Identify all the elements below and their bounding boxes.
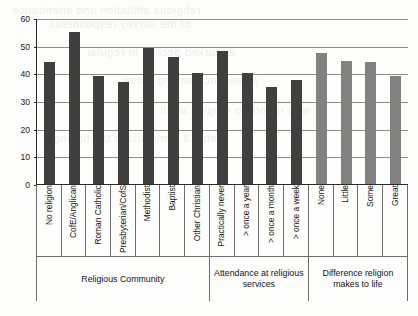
y-axis-tick-label: 30 [6, 98, 30, 107]
y-axis-tick-label: 50 [6, 43, 30, 52]
bar-slot [383, 19, 408, 184]
bar [266, 87, 277, 184]
category-cell: Other Christian [184, 185, 209, 256]
category-label: Roman Catholic [94, 185, 102, 247]
bar [341, 61, 352, 184]
category-cell: > once a week [283, 185, 308, 256]
bar-slot [185, 19, 210, 184]
category-cells: No religionCofE/AnglicanRoman CatholicPr… [37, 185, 209, 256]
category-label: CofE/Anglican [69, 185, 77, 240]
category-cell: Presbyterian/CofS [110, 185, 135, 256]
bar [69, 32, 80, 184]
category-label-table: No religionCofE/AnglicanRoman CatholicPr… [36, 185, 408, 301]
category-label: > once a year [242, 185, 250, 238]
category-label: > once a week [292, 185, 300, 241]
bar-slot [309, 19, 334, 184]
bar-slot [62, 19, 87, 184]
y-axis-tick-label: 0 [6, 181, 30, 190]
y-axis-tick-label: 10 [6, 153, 30, 162]
bar-slot [161, 19, 186, 184]
category-cell: No religion [37, 185, 61, 256]
category-cell: None [309, 185, 333, 256]
group-title: Attendance at religious services [210, 256, 308, 301]
category-label: Some [366, 185, 374, 209]
category-group: NoneLittleSomeGreatDifference religion m… [308, 185, 407, 301]
category-label: None [317, 185, 325, 207]
bar [44, 62, 55, 184]
bar-slot [359, 19, 384, 184]
category-label: No religion [45, 185, 53, 227]
bar-slot [210, 19, 235, 184]
category-label: Other Christian [193, 185, 201, 243]
bar-chart-figure: 0102030405060 No religionCofE/AnglicanRo… [0, 0, 418, 316]
bar [390, 76, 401, 184]
bar-slot [260, 19, 285, 184]
category-label: Little [341, 185, 349, 205]
plot-area: 0102030405060 [36, 19, 408, 185]
bar [316, 53, 327, 184]
category-cell: Baptist [159, 185, 184, 256]
category-cell: > once a year [234, 185, 259, 256]
category-cell: > once a month [258, 185, 283, 256]
bar [192, 73, 203, 184]
bar [93, 76, 104, 184]
category-label: Presbyterian/CofS [119, 185, 127, 255]
bar [168, 57, 179, 184]
category-cell: Methodist [135, 185, 160, 256]
bar-slot [235, 19, 260, 184]
bar [143, 48, 154, 184]
y-axis-tick-label: 60 [6, 15, 30, 24]
bars-container [37, 19, 408, 184]
bar-slot [334, 19, 359, 184]
category-label: Baptist [168, 185, 176, 213]
category-label: Methodist [143, 185, 151, 223]
category-cell: Little [333, 185, 358, 256]
category-group: No religionCofE/AnglicanRoman CatholicPr… [37, 185, 209, 301]
category-cell: Practically never [210, 185, 234, 256]
category-cell: Some [357, 185, 382, 256]
bar-slot [111, 19, 136, 184]
bar-slot [86, 19, 111, 184]
bar [217, 51, 228, 184]
bar-slot [37, 19, 62, 184]
bar [118, 82, 129, 184]
bar [291, 80, 302, 184]
category-label: > once a month [267, 185, 275, 245]
y-axis-tick-label: 20 [6, 126, 30, 135]
group-title: Difference religion makes to life [309, 256, 407, 301]
category-cell: CofE/Anglican [61, 185, 86, 256]
bar-slot [136, 19, 161, 184]
category-label: Practically never [217, 185, 225, 248]
category-label: Great [391, 185, 399, 208]
category-cell: Roman Catholic [85, 185, 110, 256]
bar [242, 73, 253, 184]
y-axis-tick-label: 40 [6, 70, 30, 79]
bar [365, 62, 376, 184]
category-cell: Great [382, 185, 407, 256]
bar-slot [284, 19, 309, 184]
category-cells: NoneLittleSomeGreat [309, 185, 407, 256]
category-cells: Practically never> once a year> once a m… [210, 185, 308, 256]
category-group: Practically never> once a year> once a m… [209, 185, 308, 301]
group-title: Religious Community [37, 256, 209, 301]
